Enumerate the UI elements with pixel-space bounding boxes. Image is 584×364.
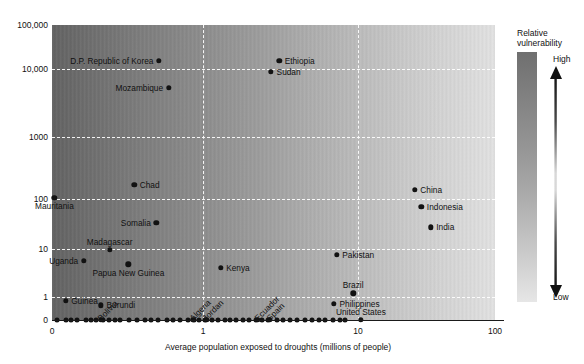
data-point[interactable] [132,182,137,187]
y-axis-tick-label: 100 [34,195,48,204]
legend-gradient-bar [517,52,537,302]
data-point[interactable] [334,252,339,257]
data-point-label: Somalia [121,219,151,227]
x-axis-title: Average population exposed to droughts (… [52,342,504,352]
data-point-label: Kenya [226,264,250,272]
data-point-label: India [436,223,454,231]
y-axis-tick-labels: 100,00010,00010001001010 [0,0,48,364]
y-axis-tick-label: 10 [39,245,48,254]
data-point[interactable] [428,225,433,230]
x-axis-line [52,320,504,321]
data-point-label: Pakistan [342,251,374,259]
data-point-label: Papua New Guinea [92,269,164,277]
x-axis-tick-label: 0 [50,326,55,336]
plot-area: D.P. Republic of KoreaEthiopiaSudanMozam… [52,25,495,320]
gridline-vertical [358,25,359,320]
data-point[interactable] [126,262,131,267]
x-axis-tick-label: 100 [488,326,502,336]
y-axis-tick-label: 100,000 [17,21,48,30]
data-point[interactable] [81,258,86,263]
data-point-label: Chad [140,181,160,189]
data-point-label: Madagascar [87,237,133,245]
data-point[interactable] [107,247,112,252]
data-point-label: Sudan [277,67,301,75]
legend-title-line1: Relative [517,28,584,38]
drought-exposure-scatter-chart: D.P. Republic of KoreaEthiopiaSudanMozam… [0,0,584,364]
vulnerability-double-arrow-icon [547,66,565,298]
gridline-horizontal [52,249,495,250]
legend-title-line2: vulnerability [517,38,584,48]
legend: Relative vulnerability High Low [517,28,584,318]
data-point-label: Brazil [343,280,364,288]
data-point[interactable] [156,58,161,63]
data-point-label: Ethiopia [285,57,315,65]
data-point[interactable] [419,204,424,209]
data-point[interactable] [63,298,68,303]
y-axis-tick-label: 1000 [29,133,48,142]
x-axis-tick-label: 10 [353,326,362,336]
data-point[interactable] [218,265,223,270]
data-point-label: Guinea [71,297,98,305]
data-point-label: United States [336,307,386,315]
data-point[interactable] [412,187,417,192]
x-axis-tick-label: 1 [201,326,206,336]
gridline-horizontal [52,199,495,200]
gridline-vertical [203,25,204,320]
data-point[interactable] [276,58,281,63]
gridline-horizontal [52,137,495,138]
y-axis-tick-label: 0 [43,316,48,325]
y-axis-tick-label: 1 [43,293,48,302]
data-point-label: Indonesia [427,203,463,211]
data-point-label: Uganda [49,257,78,265]
data-point[interactable] [268,69,273,74]
data-point[interactable] [154,220,159,225]
data-point-label: D.P. Republic of Korea [70,57,153,65]
data-point-label: Mozambique [116,84,164,92]
legend-high-label: High [553,54,570,64]
gridline-horizontal [52,69,495,70]
data-point-label: China [420,186,442,194]
y-axis-tick-label: 10,000 [22,65,48,74]
data-point[interactable] [350,290,355,295]
data-point[interactable] [166,85,171,90]
legend-title: Relative vulnerability [517,28,584,48]
